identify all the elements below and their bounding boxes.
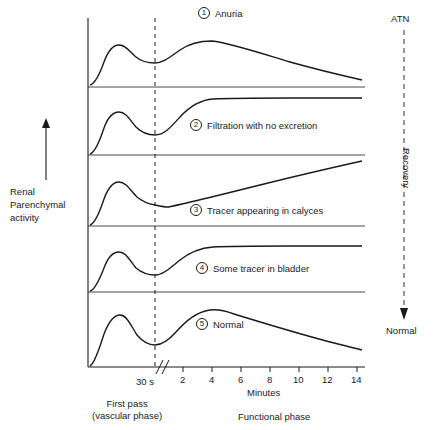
curve-number-5: 5 <box>196 318 208 330</box>
first-pass-phase-line-1: First pass <box>92 398 162 410</box>
curve-label-text-1: Anuria <box>215 8 242 19</box>
right-axis-bottom-label: Normal <box>386 325 417 337</box>
curve-number-2: 2 <box>190 119 202 131</box>
x-tick-label-8: 8 <box>267 374 272 386</box>
x-axis-unit-label: Minutes <box>247 387 280 399</box>
curve-label-text-2: Filtration with no excretion <box>207 120 317 131</box>
y-axis-title-line-3: activity <box>10 212 65 225</box>
x-tick-label-4: 4 <box>209 374 214 386</box>
y-axis-title: Renal Parenchymal activity <box>10 186 65 224</box>
right-axis-top-label: ATN <box>391 13 409 25</box>
x-tick-label-2: 2 <box>180 374 185 386</box>
y-axis-title-line-1: Renal <box>10 186 65 199</box>
curve-label-4: 4 Some tracer in bladder <box>196 262 309 274</box>
curve-label-2: 2 Filtration with no excretion <box>190 119 317 131</box>
x-tick-label-10: 10 <box>293 374 304 386</box>
first-pass-phase-line-2: (vascular phase) <box>92 410 162 422</box>
curve-label-3: 3 Tracer appearing in calyces <box>190 204 323 216</box>
x-axis-ticks <box>183 367 357 372</box>
curve-label-1: 1 Anuria <box>198 7 242 19</box>
curve-label-text-3: Tracer appearing in calyces <box>207 205 323 216</box>
up-arrow-icon <box>42 118 50 180</box>
first-pass-phase-caption: First pass (vascular phase) <box>92 398 162 422</box>
y-axis-title-line-2: Parenchymal <box>10 199 65 212</box>
curve-number-1: 1 <box>198 7 210 19</box>
curve-label-text-4: Some tracer in bladder <box>213 263 309 274</box>
right-axis-side-label: Recovery <box>401 148 412 188</box>
curve-number-3: 3 <box>190 204 202 216</box>
thirty-second-label: 30 s <box>136 376 154 388</box>
curve-label-text-5: Normal <box>213 319 244 330</box>
curve-number-4: 4 <box>196 262 208 274</box>
renal-scintigraphy-curves-figure: Renal Parenchymal activity 1 Anuria 2 Fi… <box>0 0 438 430</box>
x-tick-label-12: 12 <box>322 374 333 386</box>
x-tick-label-6: 6 <box>238 374 243 386</box>
curve-anuria <box>90 41 362 85</box>
functional-phase-caption: Functional phase <box>238 411 310 423</box>
curve-label-5: 5 Normal <box>196 318 244 330</box>
x-tick-label-14: 14 <box>351 374 362 386</box>
